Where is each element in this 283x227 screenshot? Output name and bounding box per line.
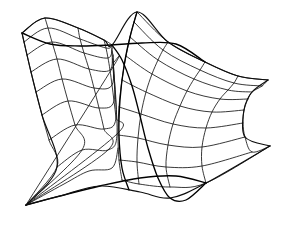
figure-container: Self-intersecting ruled surface wirefram… (0, 0, 283, 227)
wireframe-surface-drawing: Self-intersecting ruled surface wirefram… (0, 0, 283, 227)
